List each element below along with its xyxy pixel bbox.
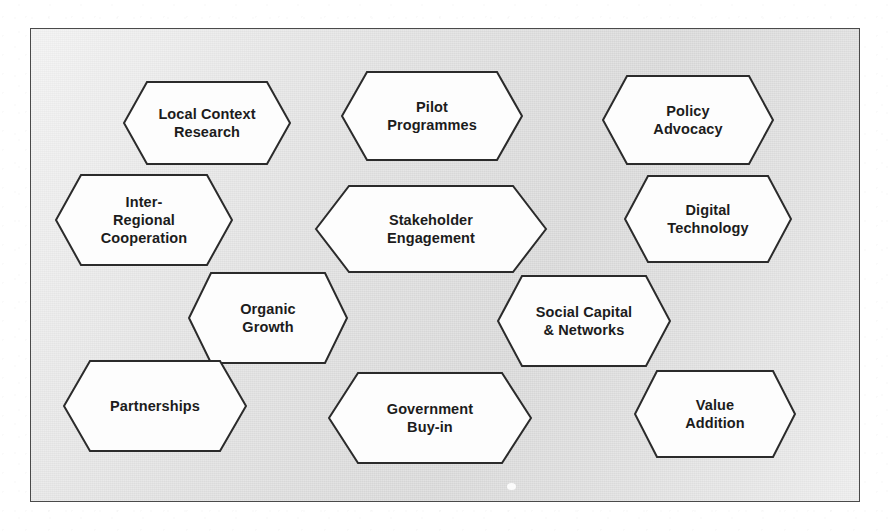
hexagon-shape (624, 175, 792, 263)
scanned-page: Local Context ResearchPilot ProgrammesPo… (0, 0, 890, 532)
diagram-frame: Local Context ResearchPilot ProgrammesPo… (30, 28, 860, 502)
hexagon-shape (315, 185, 547, 273)
hexagon-node-stakeholder-engagement[interactable]: Stakeholder Engagement (315, 185, 547, 273)
hexagon-node-policy-advocacy[interactable]: Policy Advocacy (602, 75, 774, 165)
hexagon-shape (328, 372, 532, 464)
hexagon-shape (602, 75, 774, 165)
hexagon-node-partnerships[interactable]: Partnerships (63, 360, 247, 452)
hexagon-node-pilot-programmes[interactable]: Pilot Programmes (341, 71, 523, 161)
hexagon-shape (188, 272, 348, 364)
hexagon-node-social-capital-networks[interactable]: Social Capital & Networks (497, 275, 671, 367)
hexagon-shape (123, 81, 291, 165)
hexagon-shape (55, 174, 233, 266)
hexagon-node-value-addition[interactable]: Value Addition (634, 370, 796, 458)
dust-speck-artifact (507, 483, 516, 490)
hexagon-node-local-context-research[interactable]: Local Context Research (123, 81, 291, 165)
hexagon-shape (341, 71, 523, 161)
hexagon-shape (634, 370, 796, 458)
hexagon-node-government-buy-in[interactable]: Government Buy-in (328, 372, 532, 464)
hexagon-node-inter-regional-cooperation[interactable]: Inter- Regional Cooperation (55, 174, 233, 266)
hexagon-shape (497, 275, 671, 367)
hexagon-node-organic-growth[interactable]: Organic Growth (188, 272, 348, 364)
hexagon-shape (63, 360, 247, 452)
hexagon-node-digital-technology[interactable]: Digital Technology (624, 175, 792, 263)
